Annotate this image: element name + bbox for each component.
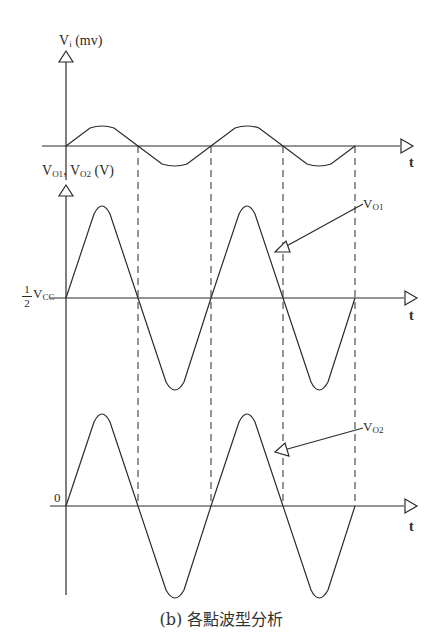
vo-label-unit: (V) xyxy=(91,163,114,178)
vo2-t-label: t xyxy=(409,519,414,535)
vcc-label: VCC xyxy=(33,286,54,302)
vo2-annotation: VO2 xyxy=(363,419,383,435)
vo-label-v2: V xyxy=(70,163,80,178)
vi-t-label: t xyxy=(409,155,414,171)
vcc-main: V xyxy=(33,286,42,301)
vo-axis-label: VO1, VO2 (V) xyxy=(42,163,114,179)
vo1-annotation: VO1 xyxy=(363,196,383,212)
vi-label-main: V xyxy=(59,33,69,48)
vcc-sub: CC xyxy=(42,292,54,302)
vo-label-sep: , xyxy=(63,163,70,178)
vo1-t-axis-arrow-icon xyxy=(405,291,417,305)
vo1-t-label: t xyxy=(409,308,414,324)
vo2-pointer xyxy=(284,428,363,450)
vo2-annotation-main: V xyxy=(363,419,372,434)
vi-label-unit: (mv) xyxy=(72,33,103,48)
half-fraction: 1 2 xyxy=(22,284,32,309)
zero-label: 0 xyxy=(54,490,61,506)
fraction-numerator: 1 xyxy=(22,284,32,295)
vo1-annotation-sub: O1 xyxy=(372,202,383,212)
vo2-annotation-sub: O2 xyxy=(372,425,383,435)
vo2-t-axis-arrow-icon xyxy=(405,499,417,513)
fraction-denominator: 2 xyxy=(22,298,32,309)
vo1-pointer xyxy=(283,204,363,248)
vo-label-sub2: O2 xyxy=(80,169,91,179)
dashed-guides xyxy=(138,146,355,506)
vi-axis-label: Vi (mv) xyxy=(59,33,102,49)
vi-y-axis-arrow-icon xyxy=(59,51,73,62)
vo2-pointer-arrow-icon xyxy=(275,443,289,456)
vi-t-axis-arrow-icon xyxy=(401,139,413,153)
vo-y-axis-arrow-icon xyxy=(59,185,73,196)
vo1-annotation-main: V xyxy=(363,196,372,211)
figure-caption: (b) 各點波型分析 xyxy=(0,606,443,630)
waveform-diagram xyxy=(0,0,443,635)
vo-label-v1: V xyxy=(42,163,52,178)
vo-label-sub1: O1 xyxy=(52,169,63,179)
